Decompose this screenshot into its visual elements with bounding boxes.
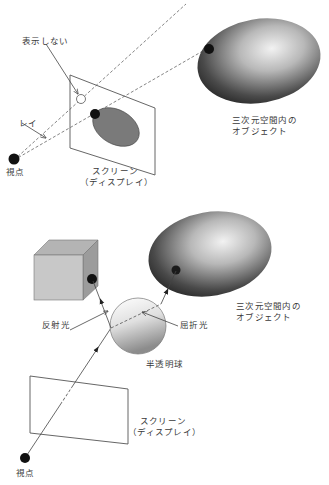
screen-label-line1: スクリーン <box>128 416 198 427</box>
object-label-line1: 三次元空間内の <box>236 301 301 312</box>
ray-upper <box>14 4 186 160</box>
not-displayed-pointer <box>46 44 78 94</box>
cube-front-face <box>34 255 83 300</box>
viewpoint-dot-top <box>9 154 20 165</box>
translucent-sphere <box>110 298 166 354</box>
top-diagram <box>9 4 328 175</box>
object-label-line1: 三次元空間内の <box>232 115 297 126</box>
projected-hit-dot <box>90 109 100 119</box>
screen-label-line2: （ディスプレイ） <box>128 427 198 438</box>
label-screen-bottom: スクリーン （ディスプレイ） <box>128 416 198 438</box>
object-hit-dot-bottom <box>172 266 181 275</box>
label-refracted-light: 屈折光 <box>180 320 208 331</box>
viewpoint-dot-bottom <box>20 453 30 463</box>
label-ray: レイ <box>19 118 38 129</box>
ray-tracing-diagram <box>0 0 329 485</box>
label-object-top: 三次元空間内の オブジェクト <box>232 115 297 137</box>
object-label-line2: オブジェクト <box>232 126 297 137</box>
screen-bottom <box>30 376 128 444</box>
projected-object <box>86 100 146 154</box>
object-hit-dot-top <box>204 44 214 54</box>
label-object-bottom: 三次元空間内の オブジェクト <box>236 301 301 323</box>
reflected-ray <box>93 281 111 328</box>
not-displayed-marker <box>77 95 86 104</box>
screen-label-line1: スクリーン <box>80 166 150 177</box>
object-egg-top <box>191 9 328 113</box>
screen-label-line2: （ディスプレイ） <box>80 177 150 188</box>
label-not-displayed: 表示しない <box>22 36 69 47</box>
object-label-line2: オブジェクト <box>236 312 301 323</box>
label-viewpoint-bottom: 視点 <box>16 468 35 479</box>
label-reflected-light: 反射光 <box>42 320 70 331</box>
label-viewpoint-top: 視点 <box>6 167 25 178</box>
object-egg-bottom <box>142 202 279 306</box>
cube-hit-dot <box>87 274 97 284</box>
reflected-light-pointer <box>70 311 108 330</box>
label-screen-top: スクリーン （ディスプレイ） <box>80 166 150 188</box>
label-translucent-sphere: 半透明球 <box>146 359 183 370</box>
